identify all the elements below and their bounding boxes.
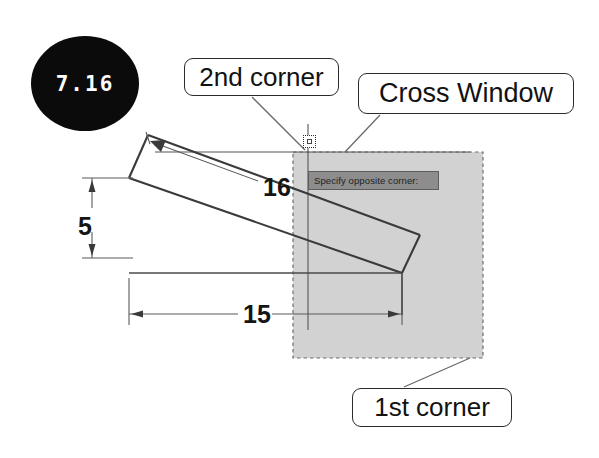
pickbox-inner-square bbox=[307, 139, 312, 144]
callout-2nd-corner[interactable]: 2nd corner bbox=[184, 58, 339, 96]
callout-cross-window-label: Cross Window bbox=[379, 78, 553, 109]
callout-cross-window[interactable]: Cross Window bbox=[358, 73, 574, 114]
command-prompt-text: Specify opposite corner: bbox=[314, 175, 418, 186]
pickbox-cursor-icon bbox=[303, 135, 316, 148]
callout-2nd-corner-label: 2nd corner bbox=[199, 62, 323, 93]
dimension-label-5: 5 bbox=[78, 212, 92, 241]
diagram-canvas: 7.16 2nd corner Cross Window 1st corner … bbox=[0, 0, 599, 458]
figure-number-label: 7.16 bbox=[56, 72, 115, 96]
callout-1st-corner-label: 1st corner bbox=[374, 392, 490, 423]
callout-1st-corner[interactable]: 1st corner bbox=[352, 388, 512, 427]
figure-number-badge: 7.16 bbox=[31, 36, 139, 131]
command-prompt-tooltip: Specify opposite corner: bbox=[308, 171, 439, 190]
dimension-label-15: 15 bbox=[243, 300, 271, 329]
dimension-label-16: 16 bbox=[263, 173, 291, 202]
